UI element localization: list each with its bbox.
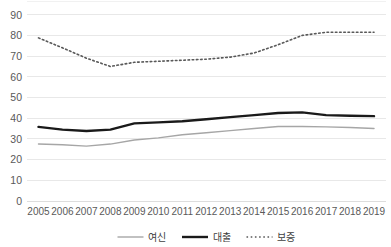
x-tick-label: 2016 [291, 206, 314, 217]
x-axis-ticks: 2005200620072008200920102011201220132014… [27, 206, 385, 217]
x-tick-label: 2017 [315, 206, 338, 217]
x-tick-label: 2013 [219, 206, 242, 217]
x-tick-label: 2010 [147, 206, 170, 217]
x-tick-label: 2014 [243, 206, 266, 217]
x-tick-label: 2015 [267, 206, 290, 217]
y-tick-label: 40 [10, 112, 22, 124]
x-tick-label: 2012 [195, 206, 218, 217]
x-tick-label: 2006 [51, 206, 74, 217]
x-tick-label: 2011 [172, 206, 194, 217]
x-tick-label: 2008 [99, 206, 122, 217]
y-tick-label: 10 [10, 174, 22, 186]
y-tick-label: 30 [10, 133, 22, 145]
x-tick-label: 2019 [363, 206, 386, 217]
legend-label-2: 대출 [213, 232, 231, 243]
y-tick-label: 60 [10, 71, 22, 83]
legend-label-3: 보증 [277, 232, 295, 243]
x-tick-label: 2009 [123, 206, 146, 217]
y-tick-label: 70 [10, 50, 22, 62]
chart-canvas: 0102030405060708090 20052006200720082009… [0, 0, 391, 247]
x-tick-label: 2018 [339, 206, 362, 217]
y-tick-label: 0 [16, 195, 22, 207]
legend-label-1: 여신 [148, 232, 166, 243]
y-tick-label: 20 [10, 153, 22, 165]
y-tick-label: 80 [10, 29, 22, 41]
line-chart: 0102030405060708090 20052006200720082009… [0, 0, 391, 247]
x-tick-label: 2005 [27, 206, 50, 217]
x-tick-label: 2007 [75, 206, 98, 217]
y-tick-label: 90 [10, 9, 22, 21]
y-tick-label: 50 [10, 91, 22, 103]
